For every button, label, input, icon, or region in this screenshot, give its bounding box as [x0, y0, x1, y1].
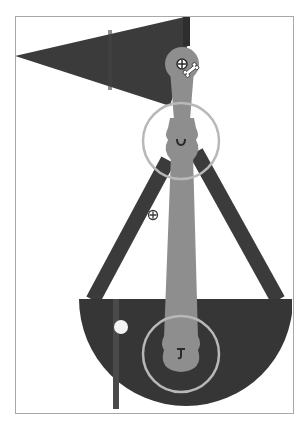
move-handle-icon[interactable]: [177, 59, 187, 69]
right-leg-shape[interactable]: [196, 152, 278, 300]
flag-dark-stripe: [183, 16, 190, 46]
flag-triangle-shape[interactable]: [15, 16, 189, 106]
upper-joint-body[interactable]: [166, 118, 199, 160]
lower-bone-shape[interactable]: [164, 155, 198, 338]
bowl-highlight-dot: [114, 320, 128, 334]
left-leg-shape[interactable]: [93, 160, 168, 300]
bowl-stripe: [113, 299, 119, 409]
add-point-handle-icon[interactable]: [149, 211, 158, 220]
flag-light-stripe: [108, 30, 112, 90]
rig-canvas[interactable]: [0, 0, 307, 425]
